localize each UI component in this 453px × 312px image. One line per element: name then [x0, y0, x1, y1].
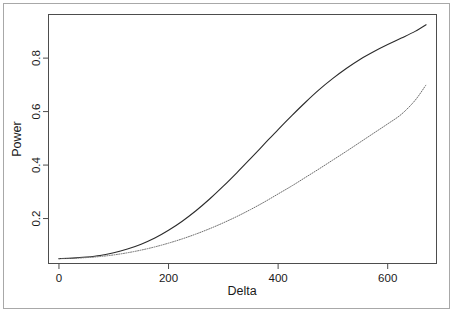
x-tick-label-200: 200 [159, 272, 178, 284]
x-axis-title: Delta [227, 284, 256, 298]
figure-background [0, 0, 453, 312]
y-tick-label-0.8: 0.8 [30, 50, 42, 66]
x-tick-label-600: 600 [378, 272, 397, 284]
y-tick-label-0.6: 0.6 [30, 104, 42, 120]
x-tick-label-0: 0 [56, 272, 62, 284]
y-tick-label-0.4: 0.4 [30, 156, 42, 173]
power-delta-plot: 0200400600 0.20.40.60.8 Delta Power [0, 0, 453, 312]
y-axis-title: Power [10, 121, 24, 156]
figure-root: 0200400600 0.20.40.60.8 Delta Power [0, 0, 453, 312]
y-tick-label-0.2: 0.2 [30, 211, 42, 227]
x-tick-label-400: 400 [269, 272, 288, 284]
